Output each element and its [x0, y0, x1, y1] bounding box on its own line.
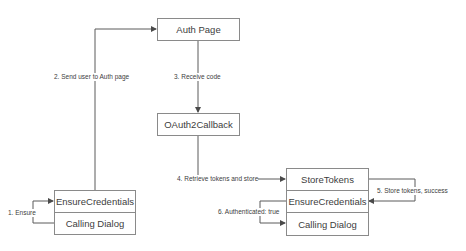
right-calling-dialog-node: Calling Dialog	[286, 212, 369, 236]
store-tokens-node: StoreTokens	[286, 168, 369, 191]
step-1-label: 1. Ensure	[8, 209, 36, 217]
step-4-label: 4. Retrieve tokens and store	[177, 175, 258, 183]
left-ensure-credentials-node: EnsureCredentials	[54, 190, 136, 213]
step-3-label: 3. Receive code	[174, 73, 221, 81]
step-5-label: 5. Store tokens, success	[377, 187, 448, 195]
step-2-label: 2. Send user to Auth page	[54, 73, 129, 81]
step-6-label: 6. Authenticated: true	[218, 208, 279, 216]
right-ensure-credentials-node: EnsureCredentials	[286, 190, 369, 213]
auth-page-node: Auth Page	[157, 18, 240, 41]
oauth-callback-node: OAuth2Callback	[157, 113, 240, 136]
left-calling-dialog-node: Calling Dialog	[54, 212, 136, 235]
